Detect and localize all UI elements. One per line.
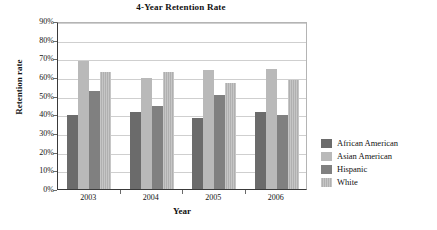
y-tick-label: 10% [14, 167, 54, 175]
x-tick-label: 2004 [121, 193, 181, 202]
legend-swatch-icon [321, 139, 332, 148]
bar [152, 106, 163, 189]
gridline [58, 23, 306, 24]
bar [277, 115, 288, 189]
y-tick-mark [53, 115, 57, 116]
y-tick-label: 40% [14, 111, 54, 119]
y-tick-mark [53, 134, 57, 135]
y-tick-label: 30% [14, 130, 54, 138]
bar [100, 72, 111, 189]
x-tick-mark [245, 190, 246, 194]
x-tick-label: 2003 [58, 193, 118, 202]
retention-rate-bar-chart: 4-Year Retention Rate Retention rate 90%… [0, 0, 437, 230]
legend-swatch-icon [321, 152, 332, 161]
y-axis-title: Retention rate [14, 37, 24, 137]
bar [266, 69, 277, 189]
y-tick-label: 0% [14, 186, 54, 194]
y-tick-label: 80% [14, 37, 54, 45]
legend-swatch-icon [321, 178, 332, 187]
y-tick-mark [53, 59, 57, 60]
bar [203, 70, 214, 189]
y-tick-mark [53, 190, 57, 191]
legend-item: African American [321, 137, 398, 150]
x-axis-title: Year [57, 206, 307, 216]
legend-swatch-icon [321, 165, 332, 174]
y-tick-mark [53, 22, 57, 23]
legend-label: Asian American [337, 152, 392, 161]
y-tick-label: 20% [14, 149, 54, 157]
legend-label: White [337, 178, 358, 187]
y-tick-mark [53, 78, 57, 79]
x-tick-mark [120, 190, 121, 194]
y-tick-label: 90% [14, 18, 54, 26]
plot-area [57, 22, 307, 190]
y-tick-label: 50% [14, 93, 54, 101]
legend-item: Hispanic [321, 163, 398, 176]
gridline [58, 42, 306, 43]
bar [78, 61, 89, 189]
bar [288, 80, 299, 189]
y-tick-mark [53, 97, 57, 98]
y-tick-mark [53, 41, 57, 42]
bar [225, 83, 236, 189]
gridline [58, 60, 306, 61]
chart-legend: African AmericanAsian AmericanHispanicWh… [321, 137, 398, 189]
bar [163, 72, 174, 189]
x-tick-label: 2005 [183, 193, 243, 202]
legend-item: Asian American [321, 150, 398, 163]
bar [130, 112, 141, 189]
y-tick-mark [53, 171, 57, 172]
legend-label: Hispanic [337, 165, 367, 174]
bar [192, 118, 203, 189]
legend-label: African American [337, 139, 398, 148]
legend-item: White [321, 176, 398, 189]
bar [214, 95, 225, 189]
x-tick-label: 2006 [246, 193, 306, 202]
x-tick-mark [182, 190, 183, 194]
y-tick-label: 60% [14, 74, 54, 82]
y-tick-label: 70% [14, 55, 54, 63]
bar [67, 115, 78, 189]
bar [255, 112, 266, 189]
y-tick-mark [53, 153, 57, 154]
bar [89, 91, 100, 189]
bar [141, 78, 152, 189]
chart-title: 4-Year Retention Rate [55, 2, 307, 12]
